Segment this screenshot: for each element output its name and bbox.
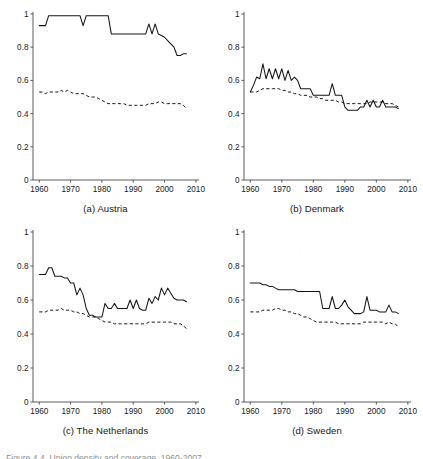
chart-plot-sweden: 00.20.40.60.81196019701980199020002010 xyxy=(211,218,423,440)
svg-text:1990: 1990 xyxy=(124,407,143,416)
svg-text:1980: 1980 xyxy=(304,185,323,194)
figure-caption: Figure 4.4. Union density and coverage, … xyxy=(6,453,417,459)
svg-text:0.8: 0.8 xyxy=(228,43,240,52)
svg-text:1990: 1990 xyxy=(124,185,143,194)
svg-text:1960: 1960 xyxy=(241,407,260,416)
panel-caption-austria: (a) Austria xyxy=(0,203,211,214)
svg-text:1960: 1960 xyxy=(30,407,49,416)
svg-text:1980: 1980 xyxy=(93,407,112,416)
svg-text:0.4: 0.4 xyxy=(228,110,240,119)
svg-text:2000: 2000 xyxy=(155,407,174,416)
svg-text:1: 1 xyxy=(24,228,29,237)
svg-text:1980: 1980 xyxy=(93,185,112,194)
svg-text:0.8: 0.8 xyxy=(228,262,240,271)
svg-text:1990: 1990 xyxy=(336,185,355,194)
svg-text:0.2: 0.2 xyxy=(17,364,29,373)
svg-text:0.6: 0.6 xyxy=(228,76,240,85)
svg-text:1960: 1960 xyxy=(241,185,260,194)
svg-text:0.6: 0.6 xyxy=(228,296,240,305)
svg-text:2000: 2000 xyxy=(367,407,386,416)
svg-text:0: 0 xyxy=(235,176,240,185)
svg-text:0.2: 0.2 xyxy=(228,364,240,373)
svg-text:1: 1 xyxy=(235,10,240,19)
panel-caption-netherlands: (c) The Netherlands xyxy=(0,425,211,436)
chart-panel-austria: 00.20.40.60.81196019701980199020002010 (… xyxy=(0,0,211,218)
svg-text:1970: 1970 xyxy=(61,185,80,194)
svg-text:2000: 2000 xyxy=(155,185,174,194)
svg-text:1970: 1970 xyxy=(273,407,292,416)
chart-panel-sweden: 00.20.40.60.81196019701980199020002010 (… xyxy=(211,218,423,440)
svg-text:0.4: 0.4 xyxy=(228,330,240,339)
chart-panel-netherlands: 00.20.40.60.81196019701980199020002010 (… xyxy=(0,218,211,440)
svg-text:2010: 2010 xyxy=(187,185,206,194)
svg-text:1970: 1970 xyxy=(273,185,292,194)
svg-text:0: 0 xyxy=(235,398,240,407)
svg-text:0.4: 0.4 xyxy=(17,330,29,339)
panel-caption-denmark: (b) Denmark xyxy=(211,203,423,214)
svg-text:2010: 2010 xyxy=(187,407,206,416)
svg-text:0.2: 0.2 xyxy=(17,143,29,152)
panel-grid: 00.20.40.60.81196019701980199020002010 (… xyxy=(0,0,423,440)
svg-text:1970: 1970 xyxy=(61,407,80,416)
svg-text:1: 1 xyxy=(235,228,240,237)
svg-text:0.6: 0.6 xyxy=(17,76,29,85)
svg-text:1990: 1990 xyxy=(336,407,355,416)
svg-text:2000: 2000 xyxy=(367,185,386,194)
panel-caption-sweden: (d) Sweden xyxy=(211,425,423,436)
svg-text:1960: 1960 xyxy=(30,185,49,194)
chart-plot-netherlands: 00.20.40.60.81196019701980199020002010 xyxy=(0,218,211,440)
chart-panel-denmark: 00.20.40.60.81196019701980199020002010 (… xyxy=(211,0,423,218)
svg-text:0: 0 xyxy=(24,176,29,185)
svg-text:0: 0 xyxy=(24,398,29,407)
svg-text:0.8: 0.8 xyxy=(17,43,29,52)
svg-text:0.2: 0.2 xyxy=(228,143,240,152)
svg-text:1980: 1980 xyxy=(304,407,323,416)
svg-text:2010: 2010 xyxy=(399,407,418,416)
svg-text:0.4: 0.4 xyxy=(17,110,29,119)
chart-plot-austria: 00.20.40.60.81196019701980199020002010 xyxy=(0,0,211,218)
svg-text:1: 1 xyxy=(24,10,29,19)
svg-text:2010: 2010 xyxy=(399,185,418,194)
chart-plot-denmark: 00.20.40.60.81196019701980199020002010 xyxy=(211,0,423,218)
svg-text:0.8: 0.8 xyxy=(17,262,29,271)
svg-text:0.6: 0.6 xyxy=(17,296,29,305)
